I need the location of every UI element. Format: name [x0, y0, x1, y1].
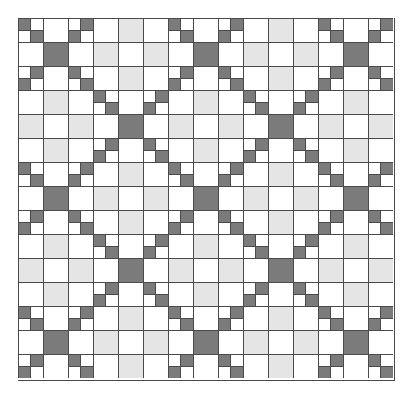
white-square [343, 354, 368, 378]
dark-patch [19, 307, 31, 319]
white-patch [331, 19, 343, 31]
dark-square [268, 258, 293, 282]
white-patch [169, 319, 181, 331]
white-patch [94, 283, 106, 295]
dark-patch [81, 19, 93, 31]
white-patch [69, 19, 81, 31]
light-square [193, 282, 218, 306]
white-square [18, 138, 43, 162]
four-patch-diag-down [218, 66, 243, 90]
dark-patch [244, 235, 256, 247]
four-patch-diag-up [93, 282, 118, 306]
white-square [318, 90, 343, 114]
white-square [218, 138, 243, 162]
white-patch [244, 103, 256, 115]
white-patch [181, 163, 193, 175]
white-patch [81, 319, 93, 331]
four-patch-diag-down [18, 306, 43, 330]
white-square [293, 306, 318, 330]
four-patch-diag-down [168, 162, 193, 186]
white-patch [169, 211, 181, 223]
white-patch [381, 31, 393, 43]
white-square [368, 234, 393, 258]
four-patch-diag-down [318, 306, 343, 330]
white-square [43, 162, 68, 186]
white-square [318, 330, 343, 354]
light-square [218, 114, 243, 138]
light-square [93, 330, 118, 354]
white-patch [231, 211, 243, 223]
white-square [93, 18, 118, 42]
dark-patch [219, 211, 231, 223]
white-square [343, 162, 368, 186]
white-square [168, 138, 193, 162]
light-square [143, 42, 168, 66]
dark-patch [94, 295, 106, 307]
dark-patch [294, 283, 306, 295]
light-square [118, 18, 143, 42]
white-patch [319, 31, 331, 43]
white-patch [69, 163, 81, 175]
light-square [143, 330, 168, 354]
dark-patch [331, 31, 343, 43]
light-square [18, 114, 43, 138]
dark-patch [319, 79, 331, 91]
dark-patch [106, 283, 118, 295]
dark-patch [81, 163, 93, 175]
white-patch [19, 31, 31, 43]
dark-patch [331, 355, 343, 367]
white-square [43, 258, 68, 282]
four-patch-diag-down [368, 210, 393, 234]
dark-patch [31, 31, 43, 43]
dark-patch [81, 367, 93, 379]
white-patch [181, 307, 193, 319]
dark-patch [306, 151, 318, 163]
white-patch [31, 307, 43, 319]
light-square [368, 258, 393, 282]
white-patch [294, 151, 306, 163]
white-square [243, 258, 268, 282]
white-patch [106, 151, 118, 163]
dark-patch [69, 67, 81, 79]
four-patch-diag-down [293, 138, 318, 162]
white-patch [319, 175, 331, 187]
light-square [118, 354, 143, 378]
white-square [218, 186, 243, 210]
light-square [243, 42, 268, 66]
white-square [193, 306, 218, 330]
dark-patch [294, 139, 306, 151]
white-patch [106, 91, 118, 103]
white-patch [94, 247, 106, 259]
white-patch [69, 307, 81, 319]
white-square [193, 66, 218, 90]
white-square [243, 306, 268, 330]
four-patch-diag-up [143, 234, 168, 258]
dark-patch [231, 19, 243, 31]
white-square [368, 90, 393, 114]
white-patch [69, 223, 81, 235]
white-square [368, 282, 393, 306]
white-patch [256, 235, 268, 247]
dark-patch [381, 307, 393, 319]
white-square [318, 42, 343, 66]
light-square [43, 138, 68, 162]
white-square [343, 210, 368, 234]
four-patch-diag-down [318, 18, 343, 42]
four-patch-diag-down [143, 138, 168, 162]
white-patch [244, 247, 256, 259]
light-square [318, 114, 343, 138]
white-square [268, 90, 293, 114]
dark-patch [219, 31, 231, 43]
white-patch [19, 67, 31, 79]
dark-patch [319, 163, 331, 175]
white-patch [369, 307, 381, 319]
white-square [268, 282, 293, 306]
white-square [318, 186, 343, 210]
white-patch [369, 367, 381, 379]
white-square [218, 234, 243, 258]
dark-patch [69, 355, 81, 367]
dark-patch [169, 307, 181, 319]
white-patch [306, 283, 318, 295]
white-square [118, 138, 143, 162]
white-patch [219, 307, 231, 319]
